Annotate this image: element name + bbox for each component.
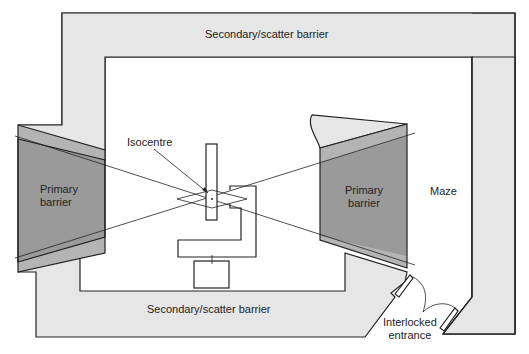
primary-barrier-right-label-1: Primary	[345, 184, 383, 197]
primary-barrier-left-label-2: barrier	[40, 196, 78, 209]
secondary-barrier-wall	[62, 13, 515, 335]
primary-barrier-left-label: Primary barrier	[40, 183, 78, 209]
entrance-label: Interlocked entrance	[383, 316, 437, 342]
bottom-barrier-label: Secondary/scatter barrier	[147, 303, 271, 316]
primary-barrier-left-label-1: Primary	[40, 183, 78, 196]
door-swing-arc	[413, 277, 457, 312]
primary-barrier-right-label-2: barrier	[345, 197, 383, 210]
bunker-floor-plan	[0, 0, 529, 354]
maze-label: Maze	[430, 185, 457, 198]
entrance-label-2: entrance	[383, 329, 437, 342]
isocentre-pointer	[154, 149, 208, 193]
couch-base	[194, 261, 229, 288]
top-barrier-label: Secondary/scatter barrier	[205, 28, 329, 41]
gantry-head	[206, 144, 217, 220]
isocentre-point	[211, 198, 213, 200]
entrance-label-1: Interlocked	[383, 316, 437, 329]
isocentre-label: Isocentre	[127, 136, 172, 149]
primary-barrier-right-label: Primary barrier	[345, 184, 383, 210]
